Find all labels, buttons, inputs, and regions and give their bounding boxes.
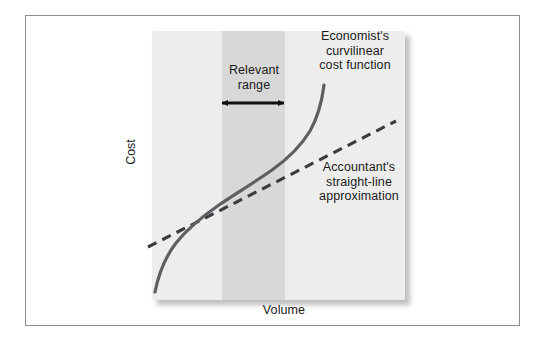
accountant-line-label: Accountant's straight-line approximation bbox=[300, 160, 418, 204]
y-axis-label-cost: Cost bbox=[124, 122, 138, 182]
economist-curve-label: Economist's curvilinear cost function bbox=[296, 29, 414, 73]
x-axis-label-volume: Volume bbox=[225, 303, 343, 318]
relevant-range-label: Relevant range bbox=[210, 63, 298, 92]
figure-frame-border bbox=[25, 15, 520, 326]
figure-root: Relevant range Economist's curvilinear c… bbox=[0, 0, 543, 339]
